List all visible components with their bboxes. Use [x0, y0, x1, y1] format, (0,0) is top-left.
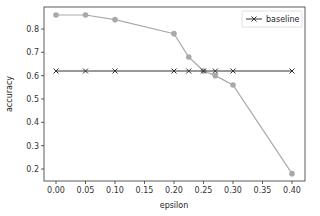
y-tick-label: 0.2 [26, 165, 39, 174]
data-point [289, 171, 295, 177]
chart: 0.000.050.100.150.200.250.300.350.40 0.2… [0, 0, 320, 216]
legend: baseline [242, 11, 302, 27]
data-point [213, 73, 219, 79]
y-tick-label: 0.5 [26, 95, 39, 104]
data-point [171, 31, 177, 37]
y-tick-label: 0.7 [26, 48, 39, 57]
y-tick-label: 0.6 [26, 72, 39, 81]
y-axis-ticks: 0.20.30.40.50.60.70.8 [26, 25, 44, 174]
x-tick-label: 0.35 [254, 186, 272, 195]
x-tick-label: 0.20 [165, 186, 183, 195]
data-point [112, 17, 118, 23]
x-tick-label: 0.05 [77, 186, 95, 195]
data-point [230, 82, 236, 88]
x-tick-label: 0.25 [195, 186, 213, 195]
x-tick-label: 0.10 [106, 186, 124, 195]
x-tick-label: 0.40 [283, 186, 301, 195]
data-point [83, 12, 89, 18]
legend-label: baseline [266, 15, 300, 24]
series-baseline [54, 69, 295, 74]
x-tick-label: 0.15 [136, 186, 154, 195]
y-axis-label: accuracy [5, 76, 14, 112]
x-axis-label: epsilon [160, 201, 189, 210]
data-point [53, 12, 59, 18]
data-point [186, 54, 192, 60]
x-axis-ticks: 0.000.050.100.150.200.250.300.350.40 [47, 181, 301, 195]
x-tick-label: 0.00 [47, 186, 65, 195]
y-tick-label: 0.3 [26, 142, 39, 151]
series-accuracy [53, 12, 295, 176]
plot-area [53, 12, 295, 176]
x-tick-label: 0.30 [224, 186, 242, 195]
y-tick-label: 0.4 [26, 118, 39, 127]
y-tick-label: 0.8 [26, 25, 39, 34]
